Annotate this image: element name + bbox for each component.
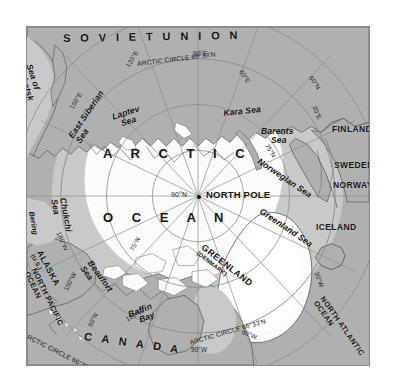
- barents-line2: Sea: [261, 136, 294, 145]
- barents-line1: Barents: [261, 127, 294, 136]
- bering-line2: Sea: [26, 212, 31, 236]
- sea-label-barents-sea: Barents Sea: [261, 127, 294, 145]
- arctic-map: S O V I E T U N I O N C A N A D A FINLAN…: [0, 0, 397, 392]
- map-frame: S O V I E T U N I O N C A N A D A FINLAN…: [26, 26, 370, 366]
- north-pole-marker: [197, 195, 201, 199]
- okhotsk-line2: Okhotsk: [26, 66, 35, 102]
